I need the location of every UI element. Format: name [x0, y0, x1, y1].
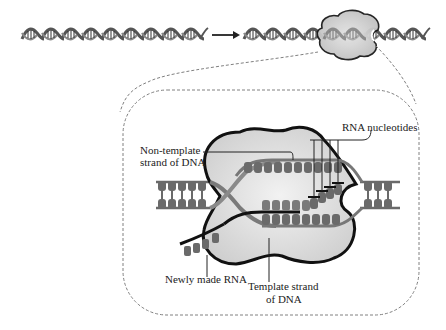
zoom-connector	[120, 46, 416, 112]
label-rna-nucleotides: RNA nucleotides	[342, 121, 417, 133]
dna-helix-left	[22, 28, 208, 39]
label-template-line1: Template strand	[248, 280, 318, 292]
label-newly-made-rna: Newly made RNA	[165, 273, 247, 285]
process-arrow	[212, 31, 240, 39]
rna-polymerase-small	[317, 10, 378, 59]
transcription-diagram: Non-template strand of DNA RNA nucleotid…	[0, 0, 446, 330]
label-non-template-line2: strand of DNA	[140, 156, 205, 168]
label-non-template-line1: Non-template	[140, 144, 200, 156]
label-template-line2: of DNA	[266, 293, 302, 305]
dna-duplex-right	[360, 181, 400, 209]
dna-duplex-left	[156, 181, 210, 209]
